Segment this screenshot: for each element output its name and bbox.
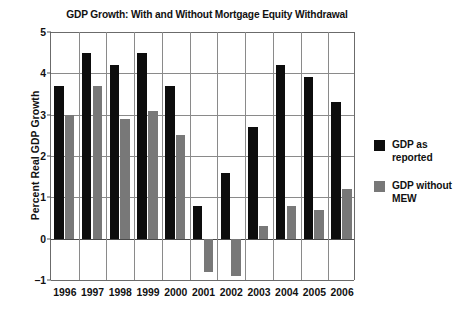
gdp-growth-bar-chart: GDP Growth: With and Without Mortgage Eq… [0,0,462,321]
legend-label-without-mew: GDP withoutMEW [392,180,452,205]
bar-1999-reported [137,53,146,239]
x-tick-label-1998: 1998 [109,287,132,298]
legend-label-line1: GDP as [392,139,433,152]
gridline-y-4 [51,73,354,74]
gridline-x-10 [328,32,329,280]
gridline-x-9 [301,32,302,280]
bar-2003-reported [248,127,257,239]
bar-2002-without-mew [231,239,240,276]
gridline-y--1 [51,280,354,281]
y-tick-mark-1 [47,197,51,198]
y-tick-label-3: 3 [40,109,46,120]
legend-item-reported: GDP asreported [374,139,460,164]
chart-title: GDP Growth: With and Without Mortgage Eq… [52,9,362,20]
gridline-x-1 [79,32,80,280]
legend-swatch-icon-without-mew [374,181,385,192]
x-tick-label-2002: 2002 [220,287,243,298]
legend-item-without-mew: GDP withoutMEW [374,180,460,205]
bar-1999-without-mew [148,111,157,239]
bar-1998-reported [110,65,119,239]
bar-2001-reported [193,206,202,239]
y-tick-label--1: −1 [34,275,46,286]
y-tick-label-1: 1 [40,192,46,203]
legend-label-line2: MEW [392,193,452,206]
y-axis-title: Percent Real GDP Growth [30,46,41,266]
bar-2000-reported [165,86,174,239]
bar-2003-without-mew [259,226,268,238]
bar-2005-without-mew [314,210,323,239]
gridline-x-5 [190,32,191,280]
y-tick-mark-3 [47,114,51,115]
x-tick-label-1997: 1997 [81,287,104,298]
legend-label-reported: GDP asreported [392,139,433,164]
x-tick-label-2000: 2000 [164,287,187,298]
x-tick-label-2003: 2003 [247,287,270,298]
gridline-x-2 [106,32,107,280]
bar-2001-without-mew [204,239,213,272]
bar-2006-reported [331,102,340,238]
bar-1997-reported [82,53,91,239]
y-tick-mark-0 [47,238,51,239]
bar-2000-without-mew [176,135,185,238]
bar-2002-reported [221,173,230,239]
y-tick-mark-4 [47,73,51,74]
y-tick-label-0: 0 [40,233,46,244]
gridline-x-4 [162,32,163,280]
y-tick-label-4: 4 [40,68,46,79]
bar-2004-without-mew [287,206,296,239]
x-tick-label-1999: 1999 [136,287,159,298]
y-tick-mark-5 [47,32,51,33]
y-tick-label-2: 2 [40,151,46,162]
chart-legend: GDP asreportedGDP withoutMEW [374,139,460,221]
bar-2005-reported [304,77,313,238]
x-tick-label-2005: 2005 [303,287,326,298]
y-tick-mark--1 [47,280,51,281]
bar-1997-without-mew [93,86,102,239]
bar-1996-without-mew [65,115,74,239]
gridline-y-5 [51,32,354,33]
x-tick-label-2001: 2001 [192,287,215,298]
x-tick-label-2004: 2004 [275,287,298,298]
gridline-x-7 [245,32,246,280]
x-tick-label-1996: 1996 [53,287,76,298]
bar-1996-reported [54,86,63,239]
bar-2006-without-mew [342,189,351,239]
gridline-x-3 [134,32,135,280]
legend-label-line2: reported [392,152,433,165]
gridline-x-8 [273,32,274,280]
bar-1998-without-mew [120,119,129,239]
y-tick-label-5: 5 [40,27,46,38]
gridline-y-0 [51,239,354,240]
plot-area: 543210−1 1996199719981999200020012002200… [50,32,355,280]
y-tick-mark-2 [47,156,51,157]
bar-2004-reported [276,65,285,239]
legend-label-line1: GDP without [392,180,452,193]
x-tick-label-2006: 2006 [331,287,354,298]
gridline-x-6 [217,32,218,280]
legend-swatch-icon-reported [374,140,385,151]
